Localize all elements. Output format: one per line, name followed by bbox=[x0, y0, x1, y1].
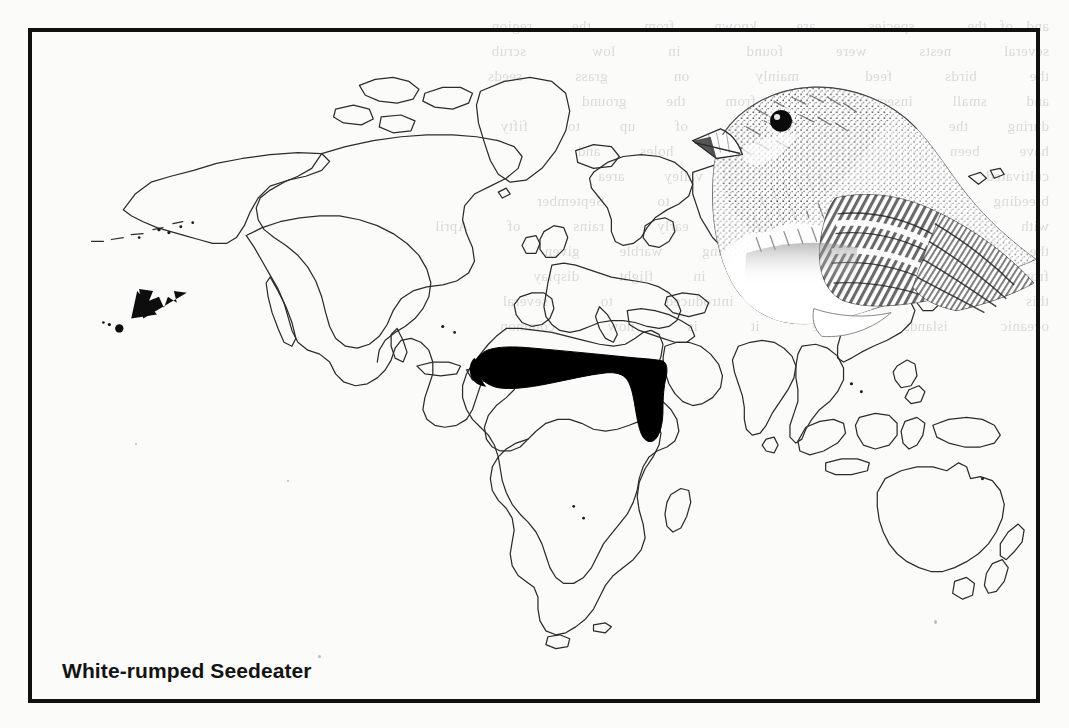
hawaii-introduced-marker bbox=[115, 324, 123, 332]
coastline-italy bbox=[596, 307, 618, 343]
island-dot bbox=[179, 225, 182, 228]
range-sahel-belt bbox=[475, 347, 667, 442]
island-dot bbox=[157, 228, 160, 231]
coastline-sea-mainland bbox=[790, 344, 844, 443]
bird-eye-highlight bbox=[774, 114, 780, 120]
island-dot bbox=[441, 325, 444, 328]
island-dot bbox=[138, 236, 141, 239]
island-dot bbox=[191, 221, 194, 224]
coastline-iberia bbox=[514, 293, 554, 327]
coastline-borneo bbox=[855, 413, 897, 449]
coastline-caribbean bbox=[417, 362, 461, 376]
island-dot bbox=[850, 382, 853, 385]
coastline-ireland bbox=[522, 236, 540, 254]
coastline-islet bbox=[990, 168, 1004, 178]
coastline-new-zealand bbox=[984, 560, 1008, 594]
coastline-new-zealand bbox=[1000, 524, 1024, 560]
coastline-arctic-islands bbox=[423, 87, 473, 109]
bird-eye bbox=[770, 110, 792, 132]
coastline-islet bbox=[498, 188, 510, 198]
species-range-group bbox=[470, 347, 667, 442]
coastline-baja bbox=[266, 277, 296, 346]
coastline-sri-lanka bbox=[762, 437, 778, 453]
coastline-scandinavia bbox=[590, 155, 693, 246]
coastline-sulawesi bbox=[901, 417, 925, 449]
coastline-tierra-del-fuego bbox=[546, 635, 570, 649]
hawaii-islet-dot bbox=[108, 323, 111, 326]
coastline-java bbox=[826, 459, 870, 475]
coastline-greenland bbox=[476, 77, 569, 182]
coastline-arctic-islands bbox=[359, 77, 419, 103]
island-dot bbox=[453, 331, 456, 334]
coastline-black-sea bbox=[665, 293, 709, 317]
coastline-canada bbox=[256, 135, 522, 348]
coastline-arctic-islands bbox=[334, 105, 374, 125]
coastline-arabia bbox=[663, 342, 723, 405]
coastline-madagascar bbox=[665, 489, 691, 532]
introduced-range-annotation-group bbox=[102, 289, 187, 333]
coastline-falklands bbox=[594, 623, 612, 633]
coastline-philippines bbox=[893, 360, 917, 388]
coastline-islet bbox=[969, 172, 987, 184]
coastline-arctic-islands bbox=[379, 115, 415, 133]
coastline-iceland bbox=[576, 145, 620, 169]
island-dot bbox=[572, 505, 575, 508]
coastline-usa-mexico bbox=[246, 236, 528, 451]
world-map-svg bbox=[32, 32, 1036, 699]
island-dot bbox=[981, 477, 984, 480]
bird-illustration bbox=[687, 75, 1036, 342]
world-map-plate bbox=[32, 32, 1036, 699]
coastline-new-guinea bbox=[933, 417, 1000, 447]
coastline-india bbox=[732, 340, 795, 435]
coastline-philippines bbox=[905, 386, 925, 404]
coastline-tasmania bbox=[953, 577, 975, 599]
bird-belly-fade bbox=[742, 243, 857, 315]
coastline-australia bbox=[877, 463, 1004, 572]
island-dot bbox=[860, 390, 863, 393]
coastline-sumatra bbox=[798, 419, 846, 455]
island-dot bbox=[167, 231, 170, 234]
coastline-baltic bbox=[643, 218, 675, 248]
figure-frame: White-rumped Seedeater bbox=[28, 28, 1040, 703]
island-dot bbox=[582, 517, 585, 520]
coastline-south-america bbox=[490, 419, 661, 634]
hawaii-islet-dot bbox=[102, 321, 105, 324]
coastline-british-isles bbox=[540, 226, 568, 258]
figure-caption: White-rumped Seedeater bbox=[62, 659, 312, 683]
